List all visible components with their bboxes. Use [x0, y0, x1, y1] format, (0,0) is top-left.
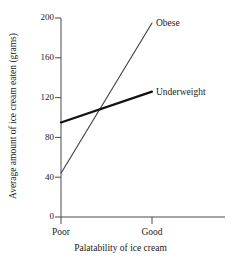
- x-tick-label-poor: Poor: [31, 228, 91, 237]
- y-tick-label-80: 80: [32, 133, 54, 142]
- x-axis-title: Palatability of ice cream: [18, 243, 223, 253]
- y-tick-label-120: 120: [32, 93, 54, 102]
- x-tick-label-good: Good: [122, 228, 182, 237]
- series-line-obese: [61, 23, 152, 173]
- series-label-obese: Obese: [156, 18, 180, 28]
- y-tick-label-160: 160: [32, 53, 54, 62]
- chart-figure: 200 160 120 80 40 0 Poor Good Obese Unde…: [0, 0, 236, 265]
- y-tick-label-200: 200: [32, 13, 54, 22]
- y-axis-title: Average amount of ice cream eaten (grams…: [8, 10, 18, 222]
- y-tick-label-0: 0: [32, 212, 54, 221]
- y-tick-label-40: 40: [32, 173, 54, 182]
- series-line-underweight: [61, 92, 152, 123]
- series-label-underweight: Underweight: [156, 87, 206, 97]
